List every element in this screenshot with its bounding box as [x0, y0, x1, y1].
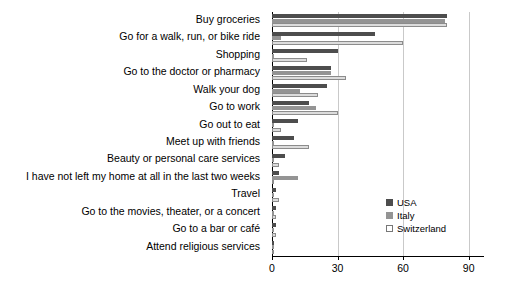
category-label: Go to a bar or café: [172, 223, 260, 234]
bar-usa: [272, 171, 279, 175]
bar-group: [272, 186, 484, 203]
bar-usa: [272, 32, 375, 36]
bar-usa: [272, 101, 309, 105]
bar-italy: [272, 19, 445, 23]
category-label: Buy groceries: [196, 14, 260, 25]
bar-usa: [272, 206, 276, 210]
category-label: Walk your dog: [193, 84, 260, 95]
legend-label: Italy: [397, 209, 414, 222]
category-label: Attend religious services: [146, 241, 260, 252]
bar-switzerland: [272, 41, 403, 45]
bar-switzerland: [272, 198, 279, 202]
bar-switzerland: [272, 145, 309, 149]
tick-label: 60: [397, 262, 409, 274]
tick-mark: [338, 256, 339, 260]
category-axis-labels: Buy groceriesGo for a walk, run, or bike…: [0, 12, 266, 256]
category-label: Go to the movies, theater, or a concert: [81, 206, 260, 217]
bar-group: [272, 221, 484, 238]
bar-chart: Buy groceriesGo for a walk, run, or bike…: [0, 0, 506, 286]
bar-switzerland: [272, 128, 281, 132]
tick-mark: [469, 256, 470, 260]
bar-group: [272, 204, 484, 221]
category-label: Meet up with friends: [166, 136, 260, 147]
bar-italy: [272, 141, 274, 145]
tick-label: 30: [332, 262, 344, 274]
legend-label: USA: [397, 196, 417, 209]
bar-switzerland: [272, 215, 276, 219]
bar-italy: [272, 245, 274, 249]
tick-mark: [403, 256, 404, 260]
bar-group: [272, 117, 484, 134]
bar-usa: [272, 241, 274, 245]
bar-usa: [272, 84, 327, 88]
bar-usa: [272, 66, 331, 70]
bar-italy: [272, 71, 331, 75]
bar-usa: [272, 49, 338, 53]
plot-area: 0306090: [272, 12, 484, 256]
legend-swatch-icon: [386, 225, 393, 232]
bar-usa: [272, 136, 294, 140]
legend-item-italy: Italy: [386, 209, 446, 222]
bar-italy: [272, 54, 274, 58]
bar-group: [272, 134, 484, 151]
category-label: Beauty or personal care services: [107, 153, 260, 164]
bar-group: [272, 82, 484, 99]
chart-legend: USA Italy Switzerland: [386, 196, 446, 235]
category-label: Go to work: [209, 101, 260, 112]
category-label: Go for a walk, run, or bike ride: [119, 31, 260, 42]
bar-usa: [272, 188, 276, 192]
tick-label: 90: [463, 262, 475, 274]
bar-usa: [272, 223, 276, 227]
legend-item-usa: USA: [386, 196, 446, 209]
bar-italy: [272, 36, 281, 40]
bar-italy: [272, 211, 274, 215]
bar-group: [272, 64, 484, 81]
bar-switzerland: [272, 111, 338, 115]
category-label: Travel: [231, 188, 260, 199]
bar-switzerland: [272, 58, 307, 62]
tick-label: 0: [269, 262, 275, 274]
bar-group: [272, 29, 484, 46]
bar-switzerland: [272, 250, 274, 254]
bar-switzerland: [272, 23, 447, 27]
category-label: Shopping: [216, 49, 260, 60]
bar-switzerland: [272, 180, 274, 184]
bar-switzerland: [272, 233, 276, 237]
bar-italy: [272, 106, 316, 110]
legend-item-switzerland: Switzerland: [386, 222, 446, 235]
tick-mark: [272, 256, 273, 260]
bar-italy: [272, 89, 300, 93]
bar-group: [272, 47, 484, 64]
bar-usa: [272, 14, 447, 18]
bar-switzerland: [272, 76, 346, 80]
category-axis-line: [272, 256, 484, 257]
bar-group: [272, 12, 484, 29]
bar-group: [272, 151, 484, 168]
legend-swatch-icon: [386, 199, 393, 206]
bar-italy: [272, 123, 274, 127]
bar-italy: [272, 176, 298, 180]
legend-swatch-icon: [386, 212, 393, 219]
category-label: Go to the doctor or pharmacy: [123, 66, 260, 77]
legend-label: Switzerland: [397, 222, 446, 235]
category-label: I have not left my home at all in the la…: [26, 171, 260, 182]
bar-switzerland: [272, 93, 318, 97]
bar-italy: [272, 228, 274, 232]
bar-usa: [272, 119, 298, 123]
bar-italy: [272, 193, 274, 197]
bar-group: [272, 99, 484, 116]
bar-switzerland: [272, 163, 279, 167]
bar-usa: [272, 154, 285, 158]
category-label: Go out to eat: [199, 119, 260, 130]
bar-group: [272, 169, 484, 186]
bar-group: [272, 239, 484, 256]
bar-italy: [272, 158, 274, 162]
